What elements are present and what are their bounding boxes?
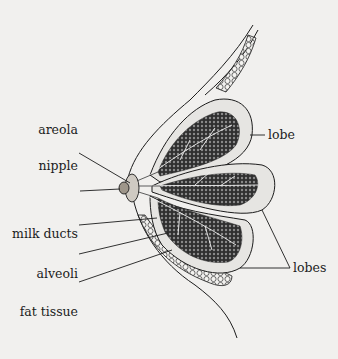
label-fat-tissue: fat tissue (0, 306, 78, 319)
upper-fat-tissue (216, 35, 256, 92)
label-lobes: lobes (293, 262, 326, 275)
label-alveoli: alveoli (10, 268, 78, 281)
label-nipple: nipple (22, 160, 78, 173)
label-lobe: lobe (268, 129, 295, 142)
diagram-canvas: areola nipple milk ducts alveoli fat tis… (0, 0, 338, 359)
label-areola: areola (22, 124, 78, 137)
nipple-shape (119, 182, 129, 194)
label-milk-ducts: milk ducts (0, 228, 78, 241)
